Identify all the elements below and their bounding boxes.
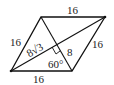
label-top-side: 16	[67, 4, 79, 16]
vertex-dot-bottom-left	[10, 70, 13, 73]
vertex-dot-top-right	[104, 16, 107, 19]
label-bottom-side: 16	[33, 73, 45, 85]
label-half-short-diagonal: 8	[67, 46, 73, 58]
label-right-side: 16	[92, 38, 104, 50]
label-angle: 60°	[48, 58, 63, 70]
label-half-long-diagonal: 8√3	[24, 40, 45, 59]
label-left-side: 16	[10, 36, 22, 48]
rhombus-diagram: 16 16 16 16 8√3 8 60°	[0, 0, 114, 85]
